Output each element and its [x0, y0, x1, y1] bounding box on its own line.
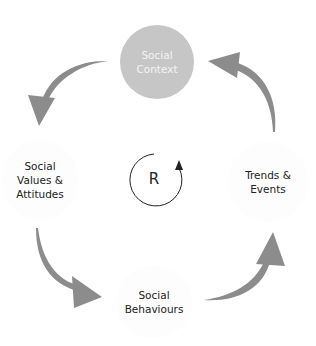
- node-social-context: Social Context: [120, 25, 194, 99]
- node-social-values-attitudes: Social Values & Attitudes: [2, 140, 78, 220]
- arrow-trends-to-context: [208, 52, 275, 132]
- arrow-values-to-behaviours: [36, 228, 102, 308]
- arrow-context-to-values: [28, 61, 108, 126]
- node-label: Social Values & Attitudes: [16, 159, 64, 201]
- arrow-behaviours-to-trends: [204, 232, 285, 300]
- node-label: Social Behaviours: [125, 288, 184, 316]
- node-social-behaviours: Social Behaviours: [116, 266, 192, 338]
- node-label: Social Context: [136, 48, 177, 76]
- node-label: Trends & Events: [245, 168, 291, 196]
- loop-label: R: [143, 170, 165, 188]
- node-trends-events: Trends & Events: [228, 142, 308, 222]
